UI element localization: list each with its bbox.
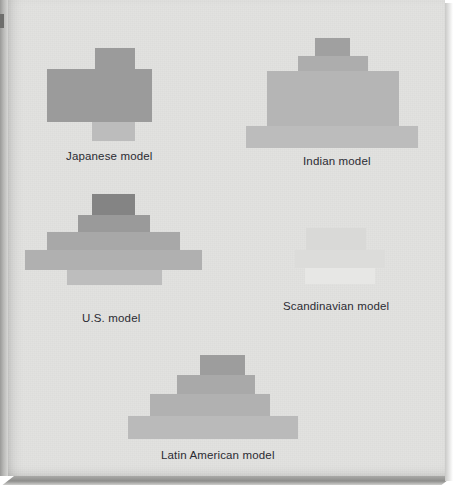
model-latin-american-tier-2 (177, 375, 255, 394)
model-latin-american-tier-base (128, 416, 298, 439)
page-bottom-edge-shadow (2, 476, 453, 485)
page-right-edge-shadow (445, 3, 453, 481)
model-latin-american-tier-1 (200, 355, 245, 375)
page-root: Japanese model Indian model U.S. model S… (0, 0, 453, 493)
model-latin-american: Latin American model (0, 0, 453, 493)
model-latin-american-label: Latin American model (161, 449, 275, 461)
model-latin-american-tier-3 (150, 394, 270, 416)
